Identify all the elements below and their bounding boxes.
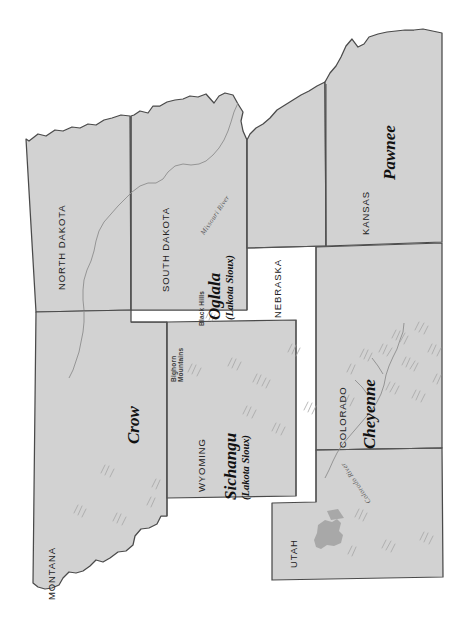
state-shape-utah[interactable] (272, 448, 443, 580)
state-shape-colorado[interactable] (316, 243, 442, 450)
label-feature-bighorn-line1: Bighorn (170, 348, 177, 382)
label-tribe-sichangu-name: Sichangu (222, 433, 240, 500)
label-tribe-sichangu-group: Sichangu (Lakota Sioux) (222, 433, 252, 500)
label-tribe-oglala-name: Oglala (206, 255, 224, 320)
label-tribe-oglala-group: Oglala (Lakota Sioux) (206, 255, 236, 320)
state-shape-nebraska[interactable] (247, 82, 326, 248)
label-tribe-sichangu-qualifier: (Lakota Sioux) (240, 433, 251, 500)
label-feature-bighorn-mountains-group: Bighorn Mountains (170, 348, 184, 382)
state-shape-montana[interactable] (33, 310, 167, 589)
historical-plains-map: NORTH DAKOTA SOUTH DAKOTA NEBRASKA KANSA… (0, 0, 471, 636)
label-feature-bighorn-line2: Mountains (177, 348, 184, 382)
state-shape-kansas[interactable] (325, 29, 442, 246)
state-shape-north-dakota[interactable] (26, 115, 131, 312)
label-tribe-oglala-qualifier: (Lakota Sioux) (224, 255, 235, 320)
